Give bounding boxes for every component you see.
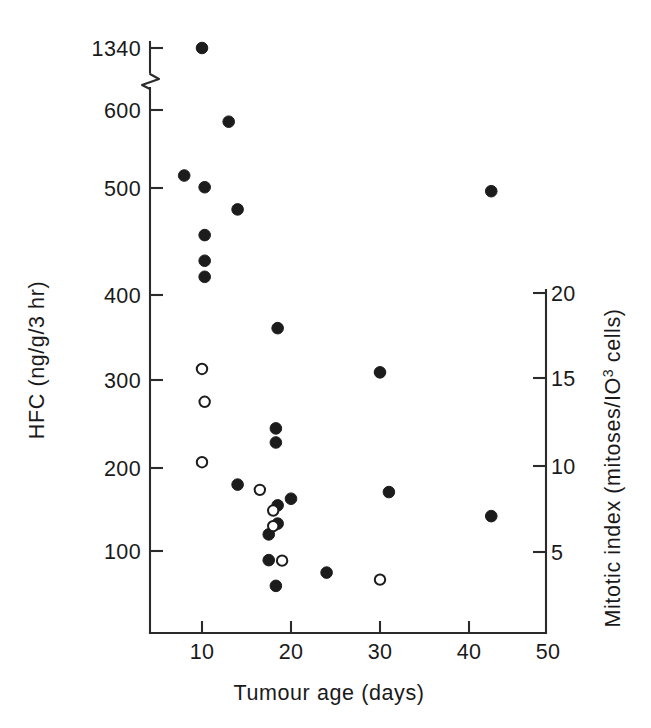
data-point-filled-circle: [199, 255, 211, 267]
right-tick-label-20: 20: [551, 282, 576, 306]
bottom-tick-label-10: 10: [190, 640, 215, 664]
bottom-axis-ticks: 10 20 30 40 50: [190, 621, 561, 664]
left-tick-label-1340: 1340: [92, 37, 141, 61]
axis-break-icon: [142, 74, 159, 89]
data-points-layer: [178, 42, 497, 591]
right-tick-label-5: 5: [551, 541, 563, 565]
y-axis-title-right-suffix: cells): [601, 308, 625, 368]
y-axis-title-left: HFC (ng/g/3 hr): [25, 281, 49, 439]
left-tick-label-100: 100: [104, 540, 141, 564]
data-point-open-circle: [268, 505, 278, 515]
data-point-open-circle: [197, 364, 207, 374]
data-point-filled-circle: [285, 493, 297, 505]
data-point-filled-circle: [270, 580, 282, 592]
data-point-filled-circle: [199, 181, 211, 193]
svg-text:Mitotic index (mitoses/IO3 cel: Mitotic index (mitoses/IO3 cells): [600, 308, 625, 627]
data-point-open-circle: [255, 485, 265, 495]
data-point-open-circle: [197, 457, 207, 467]
data-point-filled-circle: [232, 204, 244, 216]
data-point-filled-circle: [270, 437, 282, 449]
y-axis-title-right: Mitotic index (mitoses/IO3 cells): [600, 308, 625, 627]
bottom-tick-label-20: 20: [279, 640, 304, 664]
data-point-open-circle: [277, 555, 287, 565]
data-point-filled-circle: [223, 116, 235, 128]
data-point-filled-circle: [272, 322, 284, 334]
left-tick-label-500: 500: [104, 177, 141, 201]
right-tick-label-10: 10: [551, 455, 576, 479]
y-axis-title-right-exponent: 3: [600, 369, 616, 377]
right-axis-ticks: 20 15 10 5: [533, 282, 576, 565]
x-axis-title: Tumour age (days): [233, 681, 424, 705]
right-tick-label-15: 15: [551, 367, 576, 391]
data-point-filled-circle: [270, 423, 282, 435]
bottom-tick-label-50: 50: [536, 640, 561, 664]
axis-lines: [142, 42, 546, 633]
data-point-filled-circle: [232, 479, 244, 491]
data-point-open-circle: [375, 574, 385, 584]
data-point-filled-circle: [485, 185, 497, 197]
data-point-filled-circle: [199, 271, 211, 283]
left-tick-label-200: 200: [104, 457, 141, 481]
data-point-open-circle: [268, 521, 278, 531]
data-point-open-circle: [199, 397, 209, 407]
data-point-filled-circle: [263, 554, 275, 566]
bottom-tick-label-40: 40: [457, 640, 482, 664]
y-axis-title-right-prefix: Mitotic index (mitoses/IO: [601, 377, 625, 627]
left-tick-label-300: 300: [104, 369, 141, 393]
bottom-tick-label-30: 30: [368, 640, 393, 664]
scatter-plot-figure: 1340 600 500 400 300 200 100 20 15 10 5: [0, 0, 651, 728]
data-point-filled-circle: [485, 510, 497, 522]
data-point-filled-circle: [374, 367, 386, 379]
data-point-filled-circle: [321, 567, 333, 579]
plot-canvas: 1340 600 500 400 300 200 100 20 15 10 5: [0, 0, 651, 728]
data-point-filled-circle: [383, 486, 395, 498]
data-point-filled-circle: [196, 42, 208, 54]
left-tick-label-600: 600: [104, 99, 141, 123]
left-axis-ticks: 1340 600 500 400 300 200 100: [92, 37, 163, 564]
data-point-filled-circle: [199, 229, 211, 241]
left-tick-label-400: 400: [104, 284, 141, 308]
data-point-filled-circle: [178, 170, 190, 182]
